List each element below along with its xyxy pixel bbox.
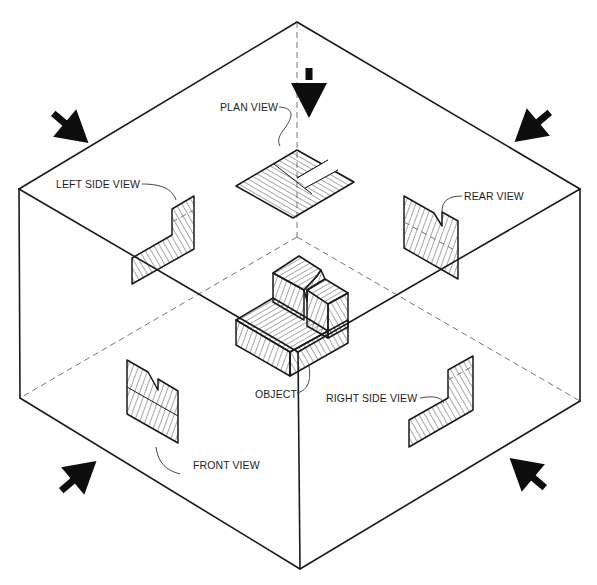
central-object [236, 256, 348, 376]
glass-box-diagram: PLAN VIEW LEFT SIDE VIEW REAR VIEW OBJEC… [0, 0, 597, 585]
arrow-bottom-right [498, 444, 556, 501]
label-left-side-view: LEFT SIDE VIEW [56, 178, 140, 190]
left-side-view-projection [132, 196, 194, 284]
label-right-side-view: RIGHT SIDE VIEW [326, 392, 417, 404]
arrow-top-left [42, 100, 100, 157]
arrow-bottom-left [50, 447, 108, 504]
label-object: OBJECT [255, 388, 298, 400]
label-rear-view: REAR VIEW [464, 190, 524, 202]
right-side-view-projection [409, 356, 473, 447]
arrow-top-right [503, 99, 561, 156]
label-plan-view: PLAN VIEW [220, 101, 278, 113]
plan-view-projection [236, 150, 354, 218]
rear-view-projection [404, 196, 458, 279]
arrow-top [291, 68, 327, 118]
front-view-projection [127, 360, 178, 443]
label-front-view: FRONT VIEW [193, 459, 260, 471]
